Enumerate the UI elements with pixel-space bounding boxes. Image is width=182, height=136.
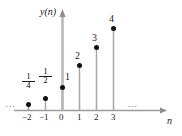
marker-n-minus2 bbox=[26, 102, 31, 107]
tick-label-n-2: 2 bbox=[94, 113, 99, 122]
marker-n-0 bbox=[60, 85, 65, 90]
fraction-denominator: 4 bbox=[22, 82, 35, 90]
ellipsis-left: ... bbox=[6, 100, 16, 109]
x-axis-label: n bbox=[167, 116, 172, 126]
tick-label-n-3: 3 bbox=[111, 113, 116, 122]
tick-label-n-minus1: −1 bbox=[39, 113, 49, 122]
marker-n-2 bbox=[94, 45, 99, 50]
value-label-n-0: 1 bbox=[65, 72, 70, 82]
value-label-n-2: 3 bbox=[92, 33, 97, 43]
value-label-n-1: 2 bbox=[75, 51, 80, 61]
tick-label-n-0: 0 bbox=[59, 113, 64, 122]
fraction-numerator: 1 bbox=[22, 73, 35, 81]
marker-n-minus1 bbox=[43, 96, 48, 101]
tick-label-n-minus2: −2 bbox=[22, 113, 32, 122]
ellipsis-right: ... bbox=[128, 100, 138, 109]
marker-n-3 bbox=[111, 26, 116, 31]
x-axis-arrowhead bbox=[160, 107, 167, 113]
y-axis-label: y(n) bbox=[40, 7, 56, 17]
fraction-denominator: 2 bbox=[39, 77, 52, 85]
marker-n-1 bbox=[77, 63, 82, 68]
stem-plot-figure: y(n) n 1 4 1 2 1 2 3 4 −2 −1 0 1 2 3 ...… bbox=[0, 0, 182, 136]
value-label-n-minus2: 1 4 bbox=[22, 73, 35, 91]
fraction-numerator: 1 bbox=[39, 68, 52, 76]
y-axis-arrowhead bbox=[59, 9, 65, 17]
value-label-n-3: 4 bbox=[109, 14, 114, 24]
value-label-n-minus1: 1 2 bbox=[39, 68, 52, 86]
tick-label-n-1: 1 bbox=[77, 113, 82, 122]
